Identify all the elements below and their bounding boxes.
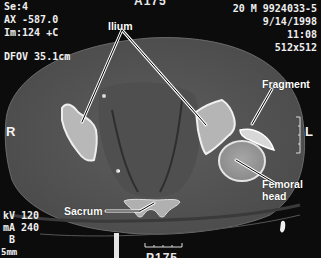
slice-thickness: 5mm — [1, 246, 17, 258]
ct-image-viewer[interactable]: Se:4 AX -587.0 Im:124 +C DFOV 35.1cm A17… — [0, 0, 321, 258]
ma-value: mA 240 — [3, 222, 39, 234]
annotation-femoral-head: Femoral head — [262, 178, 303, 202]
orientation-right-marker: R — [6, 124, 15, 139]
reconstruction-kernel: B — [9, 234, 15, 246]
kvp-value: kV 120 — [3, 210, 39, 222]
image-number: Im:124 +C — [4, 27, 58, 39]
patient-info: 20 M 9924033-5 — [233, 3, 317, 15]
bottom-margin — [0, 258, 321, 266]
study-time: 11:08 — [287, 29, 317, 41]
matrix-size: 512x512 — [275, 42, 317, 54]
slice-position: AX -587.0 — [4, 14, 58, 26]
annotation-fragment: Fragment — [262, 78, 310, 90]
posterior-position-mark: P175 — [146, 251, 178, 258]
orientation-left-marker: L — [305, 124, 313, 139]
annotation-sacrum: Sacrum — [64, 205, 103, 217]
display-fov: DFOV 35.1cm — [4, 51, 70, 63]
series-number: Se:4 — [4, 1, 28, 13]
study-date: 9/14/1998 — [263, 16, 317, 28]
anterior-position-mark: A175 — [134, 0, 167, 8]
annotation-ilium: Ilium — [108, 20, 133, 32]
